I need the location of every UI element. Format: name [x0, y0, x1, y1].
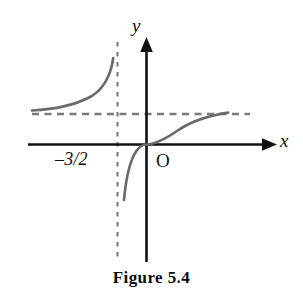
x-axis-arrowhead [262, 138, 277, 151]
figure-container: y x O –3/2 Figure 5.4 [0, 0, 303, 296]
figure-caption: Figure 5.4 [0, 268, 303, 288]
curve-right-branch [124, 113, 228, 200]
vertical-asymptote-value-label: –3/2 [55, 150, 88, 168]
y-axis-arrowhead [140, 37, 153, 52]
origin-label: O [156, 151, 170, 170]
graph-plot [0, 0, 303, 296]
curve-left-branch [32, 58, 113, 111]
y-axis-label: y [132, 16, 140, 35]
x-axis-label: x [280, 131, 288, 150]
